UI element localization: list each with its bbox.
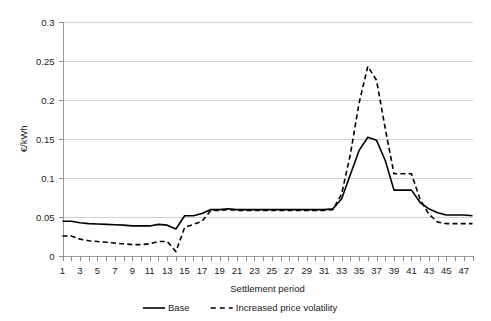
x-axis-tick-label: 47 [458, 265, 469, 276]
gridlines-group [63, 23, 473, 257]
x-axis-tick-label: 33 [336, 265, 347, 276]
x-axis-tick-label: 45 [441, 265, 452, 276]
legend-label: Base [168, 302, 190, 313]
x-axis-tick-label: 37 [371, 265, 382, 276]
x-axis-tick-label: 17 [197, 265, 208, 276]
x-axis-tick-label: 1 [60, 265, 65, 276]
y-axis-tick-label: 0.15 [36, 134, 55, 145]
series-group [63, 66, 473, 251]
x-axis-tick-label: 27 [284, 265, 295, 276]
x-axis-tick-label: 7 [112, 265, 117, 276]
x-axis-tick-label: 9 [130, 265, 135, 276]
x-axis-tick-label: 43 [424, 265, 435, 276]
y-axis-group: 00.050.10.150.20.250.3 [36, 17, 64, 262]
x-axis-tick-label: 19 [214, 265, 225, 276]
series-line-increased-price-volatility [63, 66, 473, 251]
x-axis-tick-label: 25 [267, 265, 278, 276]
chart-container: 00.050.10.150.20.250.3 13579111315171921… [0, 0, 491, 321]
x-axis-tick-label: 5 [95, 265, 100, 276]
legend-label: Increased price volatility [236, 302, 338, 313]
line-chart: 00.050.10.150.20.250.3 13579111315171921… [0, 0, 491, 321]
x-axis-title: Settlement period [230, 283, 304, 294]
x-axis-tick-label: 11 [145, 265, 155, 276]
x-axis-tick-label: 21 [232, 265, 243, 276]
y-axis-tick-label: 0.25 [36, 56, 55, 67]
x-axis-tick-label: 15 [179, 265, 190, 276]
y-axis-tick-label: 0.05 [36, 212, 55, 223]
series-line-base [63, 137, 473, 229]
y-axis-tick-label: 0.1 [41, 173, 54, 184]
x-axis-group: 1357911131517192123252729313335373941434… [60, 256, 474, 276]
legend: BaseIncreased price volatility [143, 302, 337, 313]
x-axis-tick-label: 23 [249, 265, 260, 276]
x-axis-tick-label: 41 [406, 265, 417, 276]
x-axis-tick-label: 31 [319, 265, 330, 276]
x-axis-tick-label: 39 [389, 265, 400, 276]
y-axis-tick-label: 0.3 [41, 17, 54, 28]
x-axis-tick-label: 35 [354, 265, 365, 276]
y-axis-tick-label: 0 [49, 251, 54, 262]
y-axis-title: €/kWh [18, 125, 29, 152]
y-axis-tick-label: 0.2 [41, 95, 54, 106]
x-axis-tick-label: 13 [162, 265, 173, 276]
x-axis-tick-label: 3 [77, 265, 82, 276]
x-axis-tick-label: 29 [301, 265, 312, 276]
